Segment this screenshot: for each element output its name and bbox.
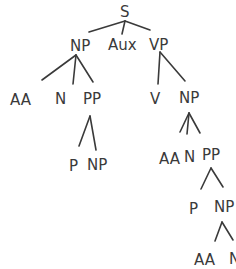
edge-np-pp — [76, 55, 93, 82]
node-pp-object: PP — [202, 146, 220, 164]
edge-np-n — [73, 55, 76, 84]
node-p: P — [69, 157, 78, 175]
node-n-object: N — [184, 148, 195, 166]
edge-s-np — [89, 21, 125, 32]
node-aa: AA — [10, 91, 32, 109]
node-aa-object: AA — [159, 150, 181, 168]
node-np: NP — [70, 37, 90, 55]
edge-np-aa — [42, 55, 76, 80]
node-vp: VP — [149, 36, 168, 54]
node-aa-deep: AA — [194, 251, 216, 269]
edge-pp-p — [79, 116, 90, 146]
edge-vp-v — [158, 52, 160, 84]
edge-np3-pp — [189, 113, 200, 133]
edge-pp-np — [90, 116, 96, 150]
edge-s-aux — [122, 21, 125, 34]
node-s: S — [120, 3, 130, 21]
edge-np4-aa — [215, 222, 222, 241]
edge-s-vp — [125, 21, 150, 30]
node-np-inner: NP — [87, 156, 107, 174]
edge-pp2-p — [201, 168, 211, 189]
tree-labels: S NP Aux VP AA N PP P NP V NP AA N PP P … — [10, 3, 236, 269]
edge-np4-n — [222, 222, 233, 240]
node-aux: Aux — [108, 36, 137, 54]
node-np-deep: NP — [214, 198, 234, 216]
node-pp: PP — [83, 90, 101, 108]
node-n-deep: N — [229, 250, 236, 268]
node-p-object: P — [189, 200, 198, 218]
node-v: V — [150, 90, 161, 108]
edge-pp2-np — [211, 168, 223, 187]
edge-vp-np — [160, 52, 185, 81]
syntax-tree-diagram: S NP Aux VP AA N PP P NP V NP AA N PP P … — [0, 0, 236, 269]
node-n: N — [55, 90, 66, 108]
node-np-object: NP — [179, 89, 199, 107]
